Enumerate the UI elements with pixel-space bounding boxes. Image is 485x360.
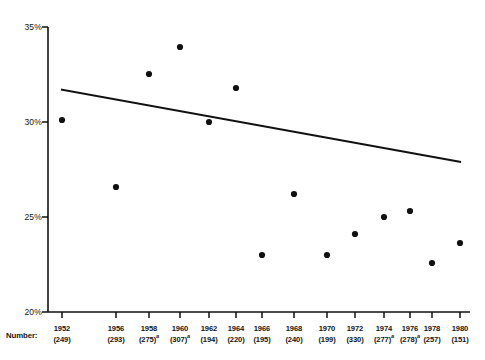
x-axis-year-label: 1962: [200, 324, 217, 335]
x-axis-year-label: 1980: [451, 324, 468, 335]
x-axis-year-label: 1952: [53, 324, 70, 335]
x-axis-ticks: [62, 312, 460, 318]
x-axis-count-label: (307)a: [170, 335, 190, 346]
y-axis-tick-label: 30%: [14, 117, 42, 127]
data-point: [259, 252, 265, 258]
x-axis-year-label: 1966: [253, 324, 270, 335]
x-axis-count-label: (194): [200, 335, 217, 346]
x-axis-count-label: (199): [318, 335, 335, 346]
x-axis-tick-label-group: 1980(151): [451, 324, 468, 345]
x-axis-count-label: (330): [346, 335, 363, 346]
y-axis-tick-label: 25%: [14, 212, 42, 222]
x-axis-year-label: 1964: [227, 324, 244, 335]
data-point: [429, 260, 435, 266]
data-point: [407, 208, 413, 214]
x-axis-tick-label-group: 1966(195): [253, 324, 270, 345]
data-point: [352, 231, 358, 237]
y-axis-tick-label: 20%: [14, 307, 42, 317]
data-point: [457, 240, 463, 246]
x-axis-count-label: (240): [285, 335, 302, 346]
x-axis-count-label: (195): [253, 335, 270, 346]
x-axis-tick-label-group: 1956(293): [107, 324, 124, 345]
x-axis-count-label: (249): [53, 335, 70, 346]
x-axis-tick-label-group: 1962(194): [200, 324, 217, 345]
x-axis-tick-label-group: 1964(220): [227, 324, 244, 345]
x-axis-year-label: 1956: [107, 324, 124, 335]
x-axis-year-label: 1970: [318, 324, 335, 335]
x-axis-year-label: 1972: [346, 324, 363, 335]
data-point: [113, 184, 119, 190]
data-point: [59, 117, 65, 123]
x-axis-count-label: (275)a: [139, 335, 159, 346]
x-axis-tick-label-group: 1976(278)a: [400, 324, 420, 345]
data-point: [291, 191, 297, 197]
x-axis-count-label: (220): [227, 335, 244, 346]
number-row-label: Number:: [6, 331, 37, 340]
data-point: [177, 44, 183, 50]
y-axis-ticks: [42, 27, 48, 312]
y-axis-tick-label: 35%: [14, 22, 42, 32]
axis-lines: [48, 27, 470, 312]
data-point: [381, 214, 387, 220]
x-axis-count-label: (257): [423, 335, 440, 346]
data-point: [146, 71, 152, 77]
x-axis-tick-label-group: 1960(307)a: [170, 324, 190, 345]
x-axis-count-label: (278)a: [400, 335, 420, 346]
footnote-marker: a: [417, 333, 420, 339]
x-axis-count-label: (293): [107, 335, 124, 346]
scatter-chart-figure: 20%25%30%35% Number: 1952(249)1956(293)1…: [0, 0, 485, 360]
x-axis-count-label: (277)a: [374, 335, 394, 346]
footnote-marker: a: [187, 333, 190, 339]
x-axis-tick-label-group: 1968(240): [285, 324, 302, 345]
x-axis-tick-label-group: 1952(249): [53, 324, 70, 345]
data-point: [206, 119, 212, 125]
x-axis-tick-label-group: 1972(330): [346, 324, 363, 345]
x-axis-tick-label-group: 1958(275)a: [139, 324, 159, 345]
footnote-marker: a: [391, 333, 394, 339]
x-axis-year-label: 1968: [285, 324, 302, 335]
x-axis-tick-label-group: 1974(277)a: [374, 324, 394, 345]
trend-line: [62, 90, 460, 162]
plot-canvas: [0, 0, 485, 360]
x-axis-year-label: 1978: [423, 324, 440, 335]
x-axis-count-label: (151): [451, 335, 468, 346]
trend-line-segment: [62, 90, 460, 162]
footnote-marker: a: [156, 333, 159, 339]
data-point: [324, 252, 330, 258]
data-point-markers: [59, 44, 463, 266]
x-axis-tick-label-group: 1970(199): [318, 324, 335, 345]
x-axis-tick-label-group: 1978(257): [423, 324, 440, 345]
data-point: [233, 85, 239, 91]
